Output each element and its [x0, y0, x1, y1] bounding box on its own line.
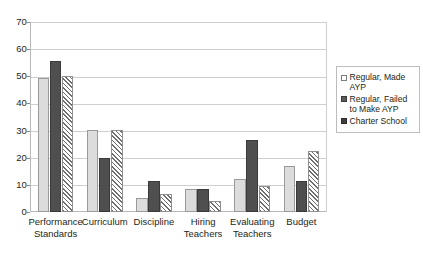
bar-chart: 70 60 50 40 30 20 10 0 Performance Stand… [0, 0, 423, 263]
bar[interactable] [185, 189, 197, 212]
bar-group [185, 22, 221, 212]
legend-swatch-icon [341, 118, 347, 124]
bar[interactable] [197, 189, 209, 212]
bar[interactable] [38, 78, 50, 212]
chart-legend: Regular, Made AYP Regular, Failed to Mak… [336, 66, 420, 133]
legend-label: Regular, Failed to Make AYP [350, 94, 416, 115]
bar[interactable] [234, 179, 246, 212]
y-tick-label: 0 [3, 207, 27, 217]
bar[interactable] [246, 140, 258, 212]
bar[interactable] [259, 186, 271, 212]
bar[interactable] [111, 130, 123, 213]
x-axis-labels: Performance StandardsCurriculumDisciplin… [31, 216, 326, 258]
bar[interactable] [87, 130, 99, 213]
bar-group [136, 22, 172, 212]
bar[interactable] [308, 151, 320, 212]
y-tick-label: 10 [3, 180, 27, 190]
bar[interactable] [62, 76, 74, 212]
bar[interactable] [148, 181, 160, 212]
legend-label: Charter School [350, 116, 407, 126]
bar[interactable] [50, 61, 62, 212]
legend-item: Charter School [341, 116, 415, 126]
bar-group [234, 22, 270, 212]
bar[interactable] [296, 181, 308, 212]
legend-label: Regular, Made AYP [350, 72, 416, 93]
x-axis-label: Budget [271, 216, 332, 228]
legend-item: Regular, Made AYP [341, 72, 415, 93]
bar[interactable] [209, 201, 221, 212]
legend-swatch-icon [341, 75, 347, 81]
y-tick-mark [26, 212, 30, 213]
bar[interactable] [99, 158, 111, 212]
bar-group [284, 22, 320, 212]
y-tick-label: 40 [3, 98, 27, 108]
y-tick-label: 70 [3, 17, 27, 27]
y-tick-label: 30 [3, 126, 27, 136]
legend-swatch-icon [341, 96, 347, 102]
bar[interactable] [160, 194, 172, 212]
bars-layer [31, 22, 326, 212]
bar[interactable] [284, 166, 296, 212]
bar[interactable] [136, 198, 148, 212]
bar-group [87, 22, 123, 212]
y-tick-label: 60 [3, 44, 27, 54]
legend-item: Regular, Failed to Make AYP [341, 94, 415, 115]
y-tick-label: 50 [3, 71, 27, 81]
bar-group [38, 22, 74, 212]
y-tick-label: 20 [3, 153, 27, 163]
